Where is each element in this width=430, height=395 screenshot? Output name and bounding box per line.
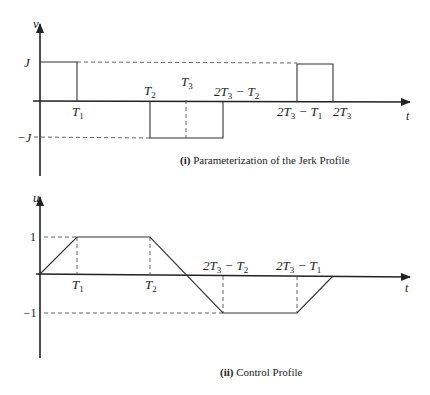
jerk-profile-plot: v t J −J T1 T2 T3 2T3 − T2 2T3 − T1 2T3 … [17, 16, 410, 176]
u-axis-label: u [33, 190, 40, 205]
tick-2T3-minus-T2: 2T3 − T2 [214, 84, 259, 101]
tick-T2: T2 [144, 83, 156, 100]
u-1-label: 1 [30, 230, 36, 244]
jerk-and-control-diagram: v t J −J T1 T2 T3 2T3 − T2 2T3 − T1 2T3 … [0, 0, 430, 395]
u-neg1-label: −1 [24, 306, 37, 320]
tick-2T3-minus-T1: 2T3 − T1 [277, 104, 322, 121]
control-profile-plot: u t 1 −1 T1 T2 2T3 − T2 2T3 − T1 (ii) Co… [24, 190, 410, 379]
j-level-label: J [24, 55, 31, 70]
tick-2T3-minus-T1-ii: 2T3 − T1 [276, 258, 321, 275]
t-axis-label: t [406, 109, 410, 123]
tick-T2-ii: T2 [145, 277, 157, 294]
t-axis-label-ii: t [405, 281, 409, 295]
tick-T1-ii: T1 [72, 277, 84, 294]
neg-j-level-label: −J [17, 130, 33, 145]
tick-T3: T3 [181, 74, 193, 91]
tick-2T3: 2T3 [333, 104, 352, 121]
positive-jerk-pulse-2 [297, 64, 333, 102]
neg-j-level-dashed-line [34, 137, 150, 138]
caption-jerk-profile: (i) Parameterization of the Jerk Profile [180, 154, 350, 167]
t-axis [33, 101, 410, 102]
negative-jerk-pulse [150, 101, 223, 138]
tick-2T3-minus-T2-ii: 2T3 − T2 [203, 258, 248, 275]
tick-T1: T1 [72, 104, 84, 121]
v-axis-label: v [33, 16, 39, 31]
j-level-dashed-line [77, 62, 297, 63]
positive-jerk-pulse-1 [40, 62, 77, 101]
caption-control-profile: (ii) Control Profile [220, 366, 303, 379]
